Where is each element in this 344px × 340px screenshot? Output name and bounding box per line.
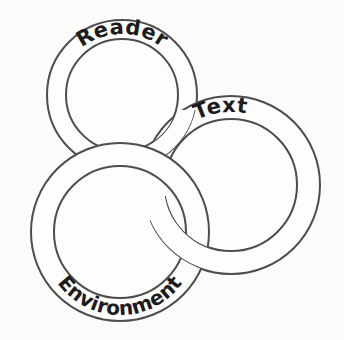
- ring-environment: [31, 143, 209, 321]
- rings-svg-canvas: Reader Text Environment: [0, 0, 344, 340]
- interlocking-rings-diagram: Reader Text Environment: [0, 0, 344, 340]
